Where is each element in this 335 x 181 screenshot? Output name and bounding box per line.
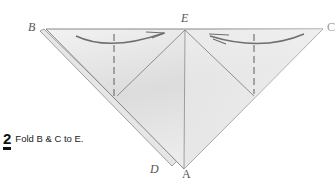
- point-label-e: E: [181, 12, 188, 24]
- step-instruction: 2 Fold B & C to E.: [3, 132, 83, 150]
- step-number: 2: [3, 132, 11, 150]
- point-label-b: B: [28, 21, 35, 33]
- point-label-a: A: [182, 168, 191, 180]
- point-label-d: D: [150, 163, 159, 175]
- step-text: Fold B & C to E.: [15, 132, 83, 145]
- point-label-c: C: [327, 21, 335, 33]
